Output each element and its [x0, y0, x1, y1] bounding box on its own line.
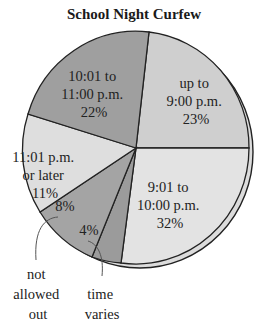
pie-chart: up to 9:00 p.m. 23% 9:01 to 10:00 p.m. 3…: [0, 0, 268, 333]
label-not-allowed-pct: 8%: [55, 198, 74, 214]
label-time-varies-pct: 4%: [79, 222, 98, 238]
callout-not-allowed-out: not allowed out: [13, 266, 63, 322]
callout-time-varies: time varies: [85, 286, 120, 322]
